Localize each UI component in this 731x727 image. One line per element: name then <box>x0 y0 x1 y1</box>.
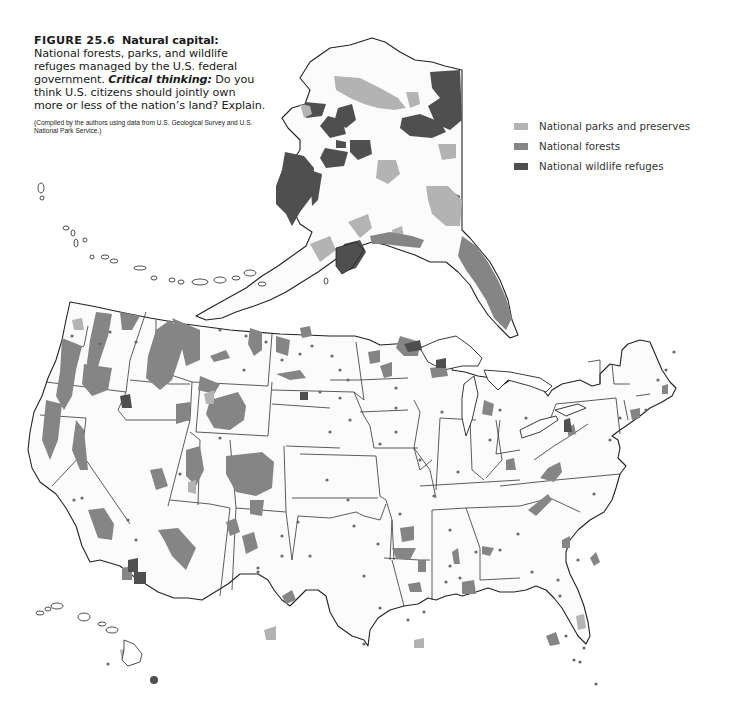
alaska-map <box>38 38 518 338</box>
federal-lands-map <box>0 0 731 727</box>
hawaii <box>36 603 142 666</box>
contiguous-us-map <box>28 302 676 686</box>
